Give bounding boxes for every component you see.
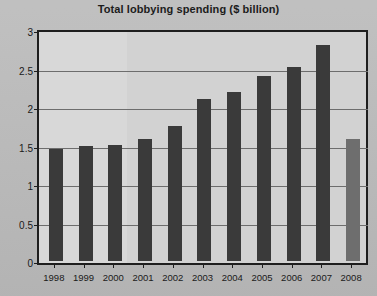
x-axis-tick-mark <box>262 263 263 268</box>
bar <box>257 76 271 261</box>
y-axis-tick-label: 0.5 <box>19 219 33 230</box>
x-axis-tick-mark <box>351 263 352 268</box>
x-axis-tick-mark <box>113 263 114 268</box>
plot-area: 00.511.522.53 <box>37 30 368 265</box>
bar <box>108 145 122 261</box>
bar-slot <box>41 32 71 261</box>
x-axis-tick-label: 2000 <box>103 272 124 283</box>
bar <box>138 139 152 261</box>
x-axis-tick-label: 2006 <box>281 272 302 283</box>
x-axis-tick-label: 2007 <box>311 272 332 283</box>
y-axis-tick-label: 1.5 <box>19 142 33 153</box>
y-axis-tick-mark <box>34 186 39 187</box>
y-axis-tick-mark <box>34 109 39 110</box>
x-axis-tick-label: 2002 <box>162 272 183 283</box>
x-axis-tick-mark <box>173 263 174 268</box>
y-axis-tick-mark <box>34 263 39 264</box>
bar <box>49 149 63 261</box>
y-axis-tick-label: 2 <box>27 104 33 115</box>
x-axis-tick-label: 2004 <box>222 272 243 283</box>
x-axis-tick-mark <box>232 263 233 268</box>
bar-slot <box>219 32 249 261</box>
x-axis-tick-label: 2005 <box>251 272 272 283</box>
x-axis-tick-mark <box>321 263 322 268</box>
bar <box>346 139 360 261</box>
x-axis-tick-mark <box>203 263 204 268</box>
bar-slot <box>100 32 130 261</box>
x-axis-tick-mark <box>54 263 55 268</box>
y-axis-tick-mark <box>34 71 39 72</box>
bar <box>316 45 330 261</box>
bar-slot <box>249 32 279 261</box>
chart-title: Total lobbying spending ($ billion) <box>0 3 377 15</box>
bar <box>287 67 301 261</box>
y-axis-tick-mark <box>34 148 39 149</box>
x-axis-tick-mark <box>143 263 144 268</box>
bar-slot <box>279 32 309 261</box>
bar-slot <box>71 32 101 261</box>
bar <box>79 146 93 262</box>
x-axis-tick-label: 1999 <box>73 272 94 283</box>
bar <box>227 92 241 261</box>
bar-slot <box>309 32 339 261</box>
bar-slot <box>130 32 160 261</box>
bar <box>168 126 182 261</box>
chart-figure: Total lobbying spending ($ billion) 00.5… <box>0 0 377 296</box>
bar-series <box>41 32 366 261</box>
y-axis-tick-label: 1 <box>27 181 33 192</box>
y-axis-tick-label: 2.5 <box>19 65 33 76</box>
x-axis-tick-mark <box>84 263 85 268</box>
bar-slot <box>160 32 190 261</box>
x-axis-tick-mark <box>292 263 293 268</box>
y-axis-tick-mark <box>34 32 39 33</box>
y-axis-tick-label: 0 <box>27 258 33 269</box>
bar-slot <box>190 32 220 261</box>
x-axis-tick-label: 2003 <box>192 272 213 283</box>
x-axis-tick-label: 2001 <box>132 272 153 283</box>
x-axis-tick-label: 1998 <box>43 272 64 283</box>
bar <box>197 99 211 261</box>
y-axis-tick-mark <box>34 225 39 226</box>
y-axis-tick-label: 3 <box>27 27 33 38</box>
x-axis-tick-label: 2008 <box>341 272 362 283</box>
bar-slot <box>338 32 368 261</box>
